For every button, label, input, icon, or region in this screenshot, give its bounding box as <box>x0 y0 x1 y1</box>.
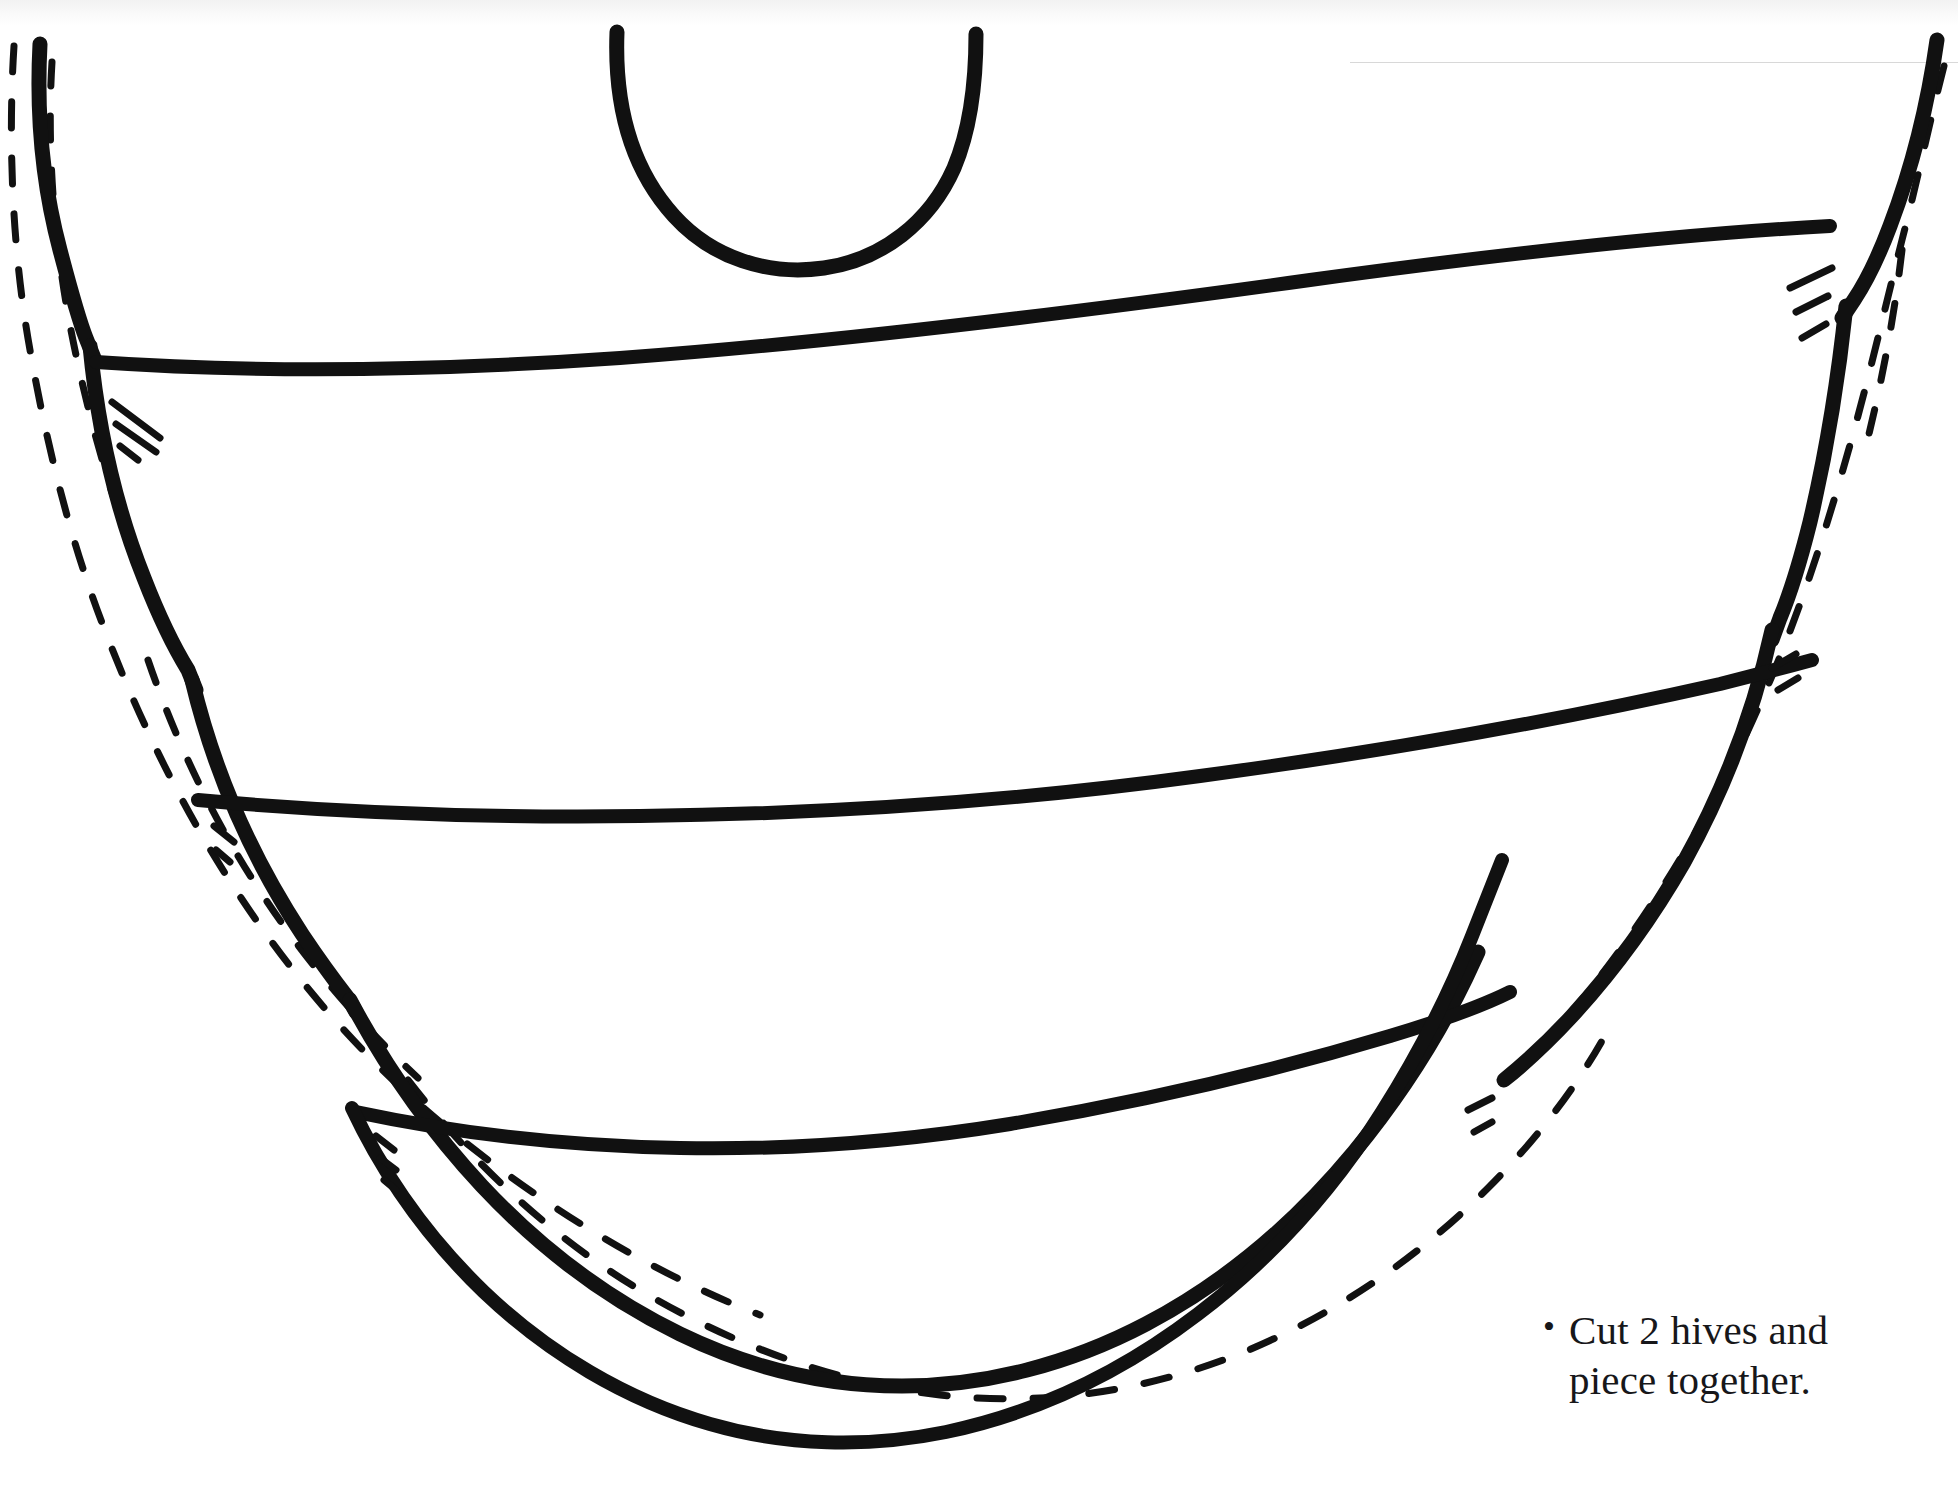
outer-contour-left-band2 <box>192 680 356 1012</box>
outer-contour-left-lower <box>90 346 196 690</box>
seam-allowance-bottom <box>408 1030 1608 1399</box>
bullet-icon: • <box>1543 1305 1569 1349</box>
seam-allowance-left-band <box>148 660 418 1078</box>
caption-line-2: piece together. <box>1543 1355 1923 1405</box>
seam-allowance-left-inner <box>50 62 168 640</box>
outer-contour-right <box>1842 40 1937 318</box>
outer-contour-right-lower <box>1772 306 1846 640</box>
band-line-1 <box>96 226 1830 369</box>
caption-text-line-1: Cut 2 hives and <box>1569 1305 1923 1355</box>
hive-pattern-drawing <box>0 0 1958 1500</box>
top-arch <box>617 32 976 270</box>
seam-allowance-right <box>1524 66 1944 1066</box>
band-line-3 <box>356 992 1510 1148</box>
caption-block: • Cut 2 hives and piece together. <box>1543 1305 1923 1405</box>
bottom-arc <box>352 860 1502 1442</box>
caption-line-1: • Cut 2 hives and <box>1543 1305 1923 1355</box>
notch-marks <box>112 268 1832 1190</box>
pattern-page: • Cut 2 hives and piece together. <box>0 0 1958 1500</box>
outer-contour-left <box>39 44 94 358</box>
band-line-2 <box>198 660 1812 816</box>
caption-text-line-2: piece together. <box>1569 1355 1923 1405</box>
